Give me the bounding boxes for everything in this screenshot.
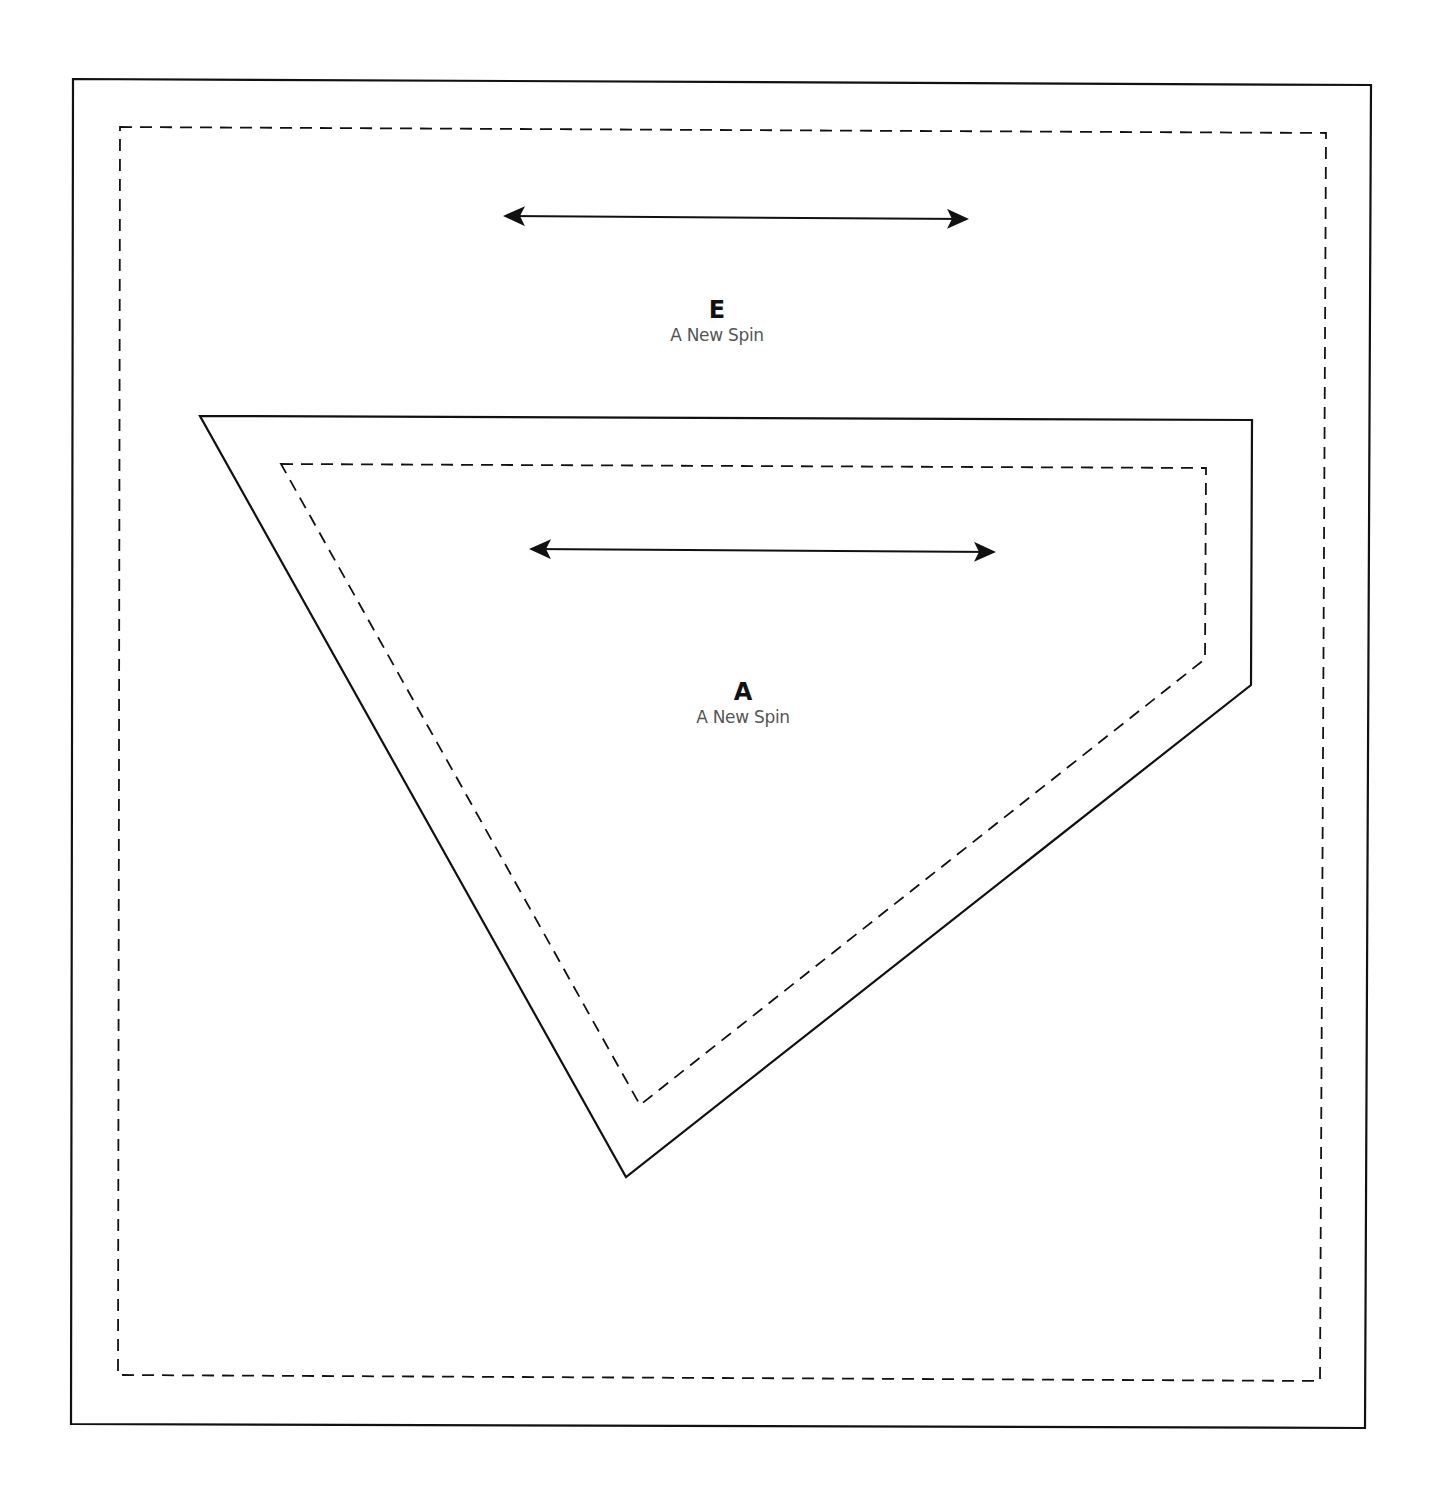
piece-a-pattern-name: A New Spin [696, 706, 790, 728]
pattern-template-canvas [0, 0, 1433, 1495]
piece-e-pattern-name: A New Spin [670, 324, 764, 346]
piece-e-label: E A New Spin [670, 296, 764, 346]
piece-a-letter: A [696, 678, 790, 706]
piece-a-label: A A New Spin [696, 678, 790, 728]
piece-a-cut-outline [200, 416, 1252, 1177]
piece-e-grain-arrow-icon [505, 216, 967, 219]
piece-e-letter: E [670, 296, 764, 324]
piece-a [200, 416, 1252, 1177]
